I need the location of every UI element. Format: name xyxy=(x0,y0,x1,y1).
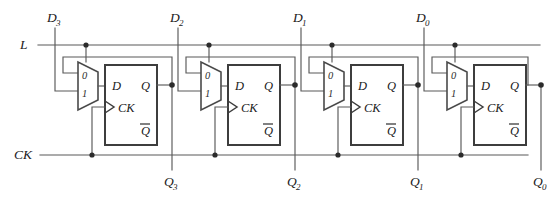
stage-3-data-input-wire xyxy=(55,28,78,91)
junction-dot xyxy=(292,82,298,88)
junction-dot xyxy=(206,42,211,47)
stage-2: 0 1 D Q CK Q xyxy=(178,28,298,170)
stage-3-d-pin-label: D xyxy=(111,79,121,93)
stage-3-q-pin-label: Q xyxy=(141,79,150,93)
output-2-subscript: 2 xyxy=(296,182,301,192)
data-input-1-subscript: 1 xyxy=(302,18,307,28)
stage-1-ck-pin-label: CK xyxy=(364,101,381,115)
stage-0-qbar-pin-label: Q xyxy=(510,124,519,138)
junction-dot xyxy=(83,42,88,47)
stage-3: 0 1 D Q CK Q xyxy=(55,28,175,170)
junction-dot xyxy=(169,82,175,88)
stage-1-mux xyxy=(324,62,344,110)
output-0-subscript: 0 xyxy=(542,182,547,192)
output-1-subscript: 1 xyxy=(419,182,424,192)
stage-0-ck-pin-label: CK xyxy=(487,101,504,115)
stage-1-mux-input-0-label: 0 xyxy=(328,70,334,81)
stage-0-clock-wire xyxy=(461,107,474,155)
junction-dot xyxy=(452,42,457,47)
stage-2-qbar-pin-label: Q xyxy=(264,124,273,138)
data-input-0-subscript: 0 xyxy=(425,18,430,28)
stage-2-data-input-wire xyxy=(178,28,201,91)
stage-2-clock-wire xyxy=(215,107,228,155)
stage-1-mux-input-1-label: 1 xyxy=(328,88,333,99)
junction-dot xyxy=(458,152,463,157)
junction-dot xyxy=(212,152,217,157)
junction-dot xyxy=(89,152,94,157)
stage-2-d-pin-label: D xyxy=(234,79,244,93)
junction-dot xyxy=(329,42,334,47)
stage-2-mux-input-1-label: 1 xyxy=(205,88,210,99)
stage-1-d-pin-label: D xyxy=(357,79,367,93)
stage-3-mux xyxy=(78,62,98,110)
load-input-label: L xyxy=(19,37,28,52)
data-input-2-subscript: 2 xyxy=(179,18,184,28)
junction-dot xyxy=(335,152,340,157)
junction-dot xyxy=(415,82,421,88)
stage-0-mux xyxy=(447,62,467,110)
stage-1-qbar-pin-label: Q xyxy=(387,124,396,138)
stage-0-d-pin-label: D xyxy=(480,79,490,93)
stage-3-mux-input-0-label: 0 xyxy=(82,70,88,81)
output-3-subscript: 3 xyxy=(172,182,178,192)
stage-0-q-pin-label: Q xyxy=(510,79,519,93)
stage-0-mux-input-1-label: 1 xyxy=(451,88,456,99)
stage-2-ck-pin-label: CK xyxy=(241,101,258,115)
stage-2-mux xyxy=(201,62,221,110)
circuit-diagram: 0 1 D Q CK Q xyxy=(0,0,552,201)
stage-1-data-input-wire xyxy=(301,28,324,91)
stage-0-data-input-wire xyxy=(424,28,447,91)
stage-2-q-pin-label: Q xyxy=(264,79,273,93)
stage-3-clock-wire xyxy=(92,107,105,155)
output-labels: Q 3 Q 2 Q 1 Q 0 xyxy=(164,174,547,192)
stage-1-select-wire xyxy=(329,42,334,62)
clock-input-label: CK xyxy=(14,147,33,162)
data-input-3-subscript: 3 xyxy=(55,18,61,28)
stage-3-select-wire xyxy=(83,42,88,62)
stage-0: 0 1 D Q CK Q xyxy=(424,28,544,170)
stage-1-q-pin-label: Q xyxy=(387,79,396,93)
stage-0-mux-input-0-label: 0 xyxy=(451,70,457,81)
stage-2-mux-input-0-label: 0 xyxy=(205,70,211,81)
stage-3-mux-input-1-label: 1 xyxy=(82,88,87,99)
stage-3-ck-pin-label: CK xyxy=(118,101,135,115)
stage-1-clock-wire xyxy=(338,107,351,155)
logic-diagram-canvas: 0 1 D Q CK Q xyxy=(0,0,552,201)
junction-dot xyxy=(538,82,544,88)
stage-0-select-wire xyxy=(452,42,457,62)
stage-3-qbar-pin-label: Q xyxy=(141,124,150,138)
stage-1: 0 1 D Q CK Q xyxy=(301,28,421,170)
stage-2-select-wire xyxy=(206,42,211,62)
